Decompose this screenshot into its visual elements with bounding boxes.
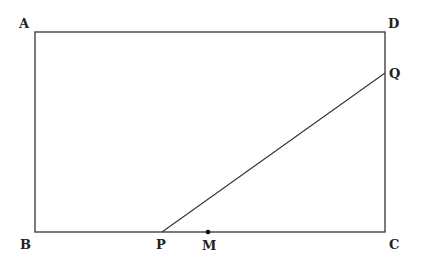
label-p: P <box>156 237 166 252</box>
point-m-dot <box>206 230 211 235</box>
label-q: Q <box>389 66 400 81</box>
label-a: A <box>18 16 30 31</box>
label-d: D <box>388 16 399 31</box>
geometry-diagram: A D Q B P M C <box>0 0 421 264</box>
rectangle-abcd <box>35 32 385 232</box>
segment-pq <box>162 73 385 232</box>
label-m: M <box>202 238 216 253</box>
label-c: C <box>389 237 399 252</box>
label-b: B <box>20 237 31 252</box>
